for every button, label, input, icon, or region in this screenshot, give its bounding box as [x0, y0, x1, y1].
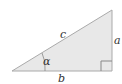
label-alpha: α [43, 55, 51, 68]
right-triangle-diagram: c a b α [0, 0, 122, 84]
label-b: b [58, 72, 65, 84]
label-c: c [60, 28, 66, 41]
label-a: a [114, 34, 121, 47]
